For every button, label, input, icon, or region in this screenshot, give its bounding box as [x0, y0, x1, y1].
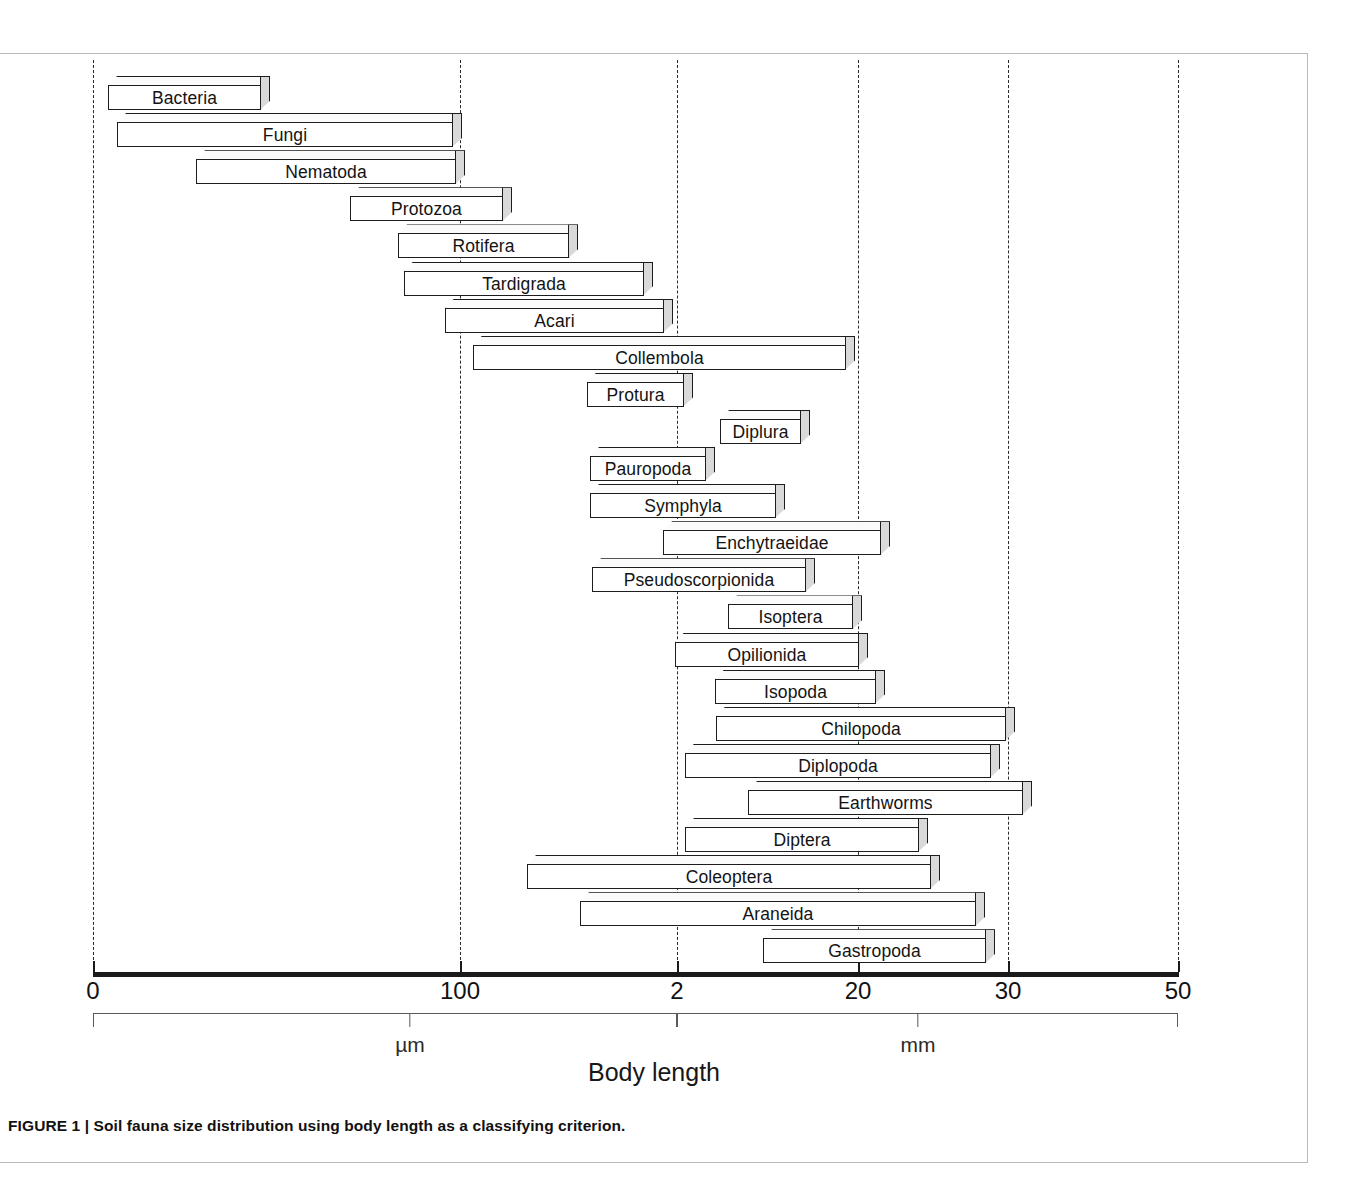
gridline-0: [93, 60, 94, 965]
bracket-end-left: [677, 1013, 678, 1027]
figure-page: BacteriaFungiNematodaProtozoaRotiferaTar…: [0, 0, 1371, 1187]
bar-front-face: [728, 604, 853, 629]
bar-side-face: [663, 299, 673, 333]
bracket-mid-tick: [917, 1013, 918, 1027]
bar-collembola: Collembola: [473, 336, 855, 362]
bar-front-face: [748, 790, 1023, 815]
bar-side-face: [502, 187, 512, 221]
bar-side-face: [858, 633, 868, 667]
bar-front-face: [196, 159, 456, 184]
bar-side-face: [260, 76, 270, 110]
bar-side-face: [805, 558, 815, 592]
bar-front-face: [580, 901, 976, 926]
bracket-line: [93, 1013, 677, 1014]
bar-pseudoscorpionida: Pseudoscorpionida: [592, 558, 815, 584]
chart-plot-area: BacteriaFungiNematodaProtozoaRotiferaTar…: [0, 60, 1308, 975]
bar-bacteria: Bacteria: [108, 76, 270, 102]
x-tick-label-0: 0: [86, 977, 99, 1005]
x-tick-2: [677, 961, 679, 972]
bar-symphyla: Symphyla: [590, 484, 785, 510]
bar-side-face: [990, 744, 1000, 778]
bar-side-face: [852, 595, 862, 629]
bar-side-face: [875, 670, 885, 704]
bar-front-face: [350, 196, 503, 221]
x-tick-label-2: 2: [670, 977, 683, 1005]
bracket-end-left: [93, 1013, 94, 1027]
bar-earthworms: Earthworms: [748, 781, 1032, 807]
bar-side-face: [775, 484, 785, 518]
x-axis-line: [93, 972, 1179, 977]
bar-diplura: Diplura: [720, 410, 810, 436]
bar-front-face: [117, 122, 453, 147]
frame-top-border: [0, 53, 1308, 54]
bar-front-face: [590, 493, 776, 518]
bar-front-face: [398, 233, 569, 258]
bar-front-face: [715, 679, 876, 704]
bar-front-face: [587, 382, 684, 407]
bracket-end-right: [1177, 1013, 1178, 1027]
bracket-mid-tick: [409, 1013, 410, 1027]
bar-front-face: [675, 642, 859, 667]
bar-nematoda: Nematoda: [196, 150, 465, 176]
bar-araneida: Araneida: [580, 892, 985, 918]
x-tick-label-50: 50: [1165, 977, 1192, 1005]
bar-front-face: [590, 456, 706, 481]
bar-side-face: [918, 818, 928, 852]
bar-side-face: [1022, 781, 1032, 815]
frame-bottom-border: [0, 1162, 1308, 1163]
x-tick-label-100: 100: [440, 977, 480, 1005]
bar-side-face: [880, 521, 890, 555]
bar-fungi: Fungi: [117, 113, 462, 139]
bar-front-face: [108, 85, 261, 110]
unit-label: mm: [901, 1033, 936, 1057]
bar-side-face: [845, 336, 855, 370]
bar-pauropoda: Pauropoda: [590, 447, 715, 473]
x-tick-0: [93, 961, 95, 972]
bar-front-face: [763, 938, 986, 963]
bar-side-face: [975, 892, 985, 926]
bar-tardigrada: Tardigrada: [404, 262, 653, 288]
x-axis-title: Body length: [0, 1058, 1308, 1087]
unit-bracket-mm: mm: [677, 1013, 1178, 1029]
bar-front-face: [720, 419, 801, 444]
bar-side-face: [455, 150, 465, 184]
bar-chilopoda: Chilopoda: [716, 707, 1015, 733]
bar-diplopoda: Diplopoda: [685, 744, 1000, 770]
x-tick-50: [1178, 961, 1180, 972]
bar-front-face: [445, 308, 664, 333]
bar-side-face: [1005, 707, 1015, 741]
unit-bracket-um: µm: [93, 1013, 677, 1029]
bracket-line: [677, 1013, 1178, 1014]
figure-caption: FIGURE 1 | Soil fauna size distribution …: [8, 1117, 1288, 1135]
bar-front-face: [592, 567, 806, 592]
bar-side-face: [930, 855, 940, 889]
bar-front-face: [404, 271, 644, 296]
bar-front-face: [685, 753, 991, 778]
x-tick-label-30: 30: [995, 977, 1022, 1005]
bar-protura: Protura: [587, 373, 693, 399]
bar-diptera: Diptera: [685, 818, 928, 844]
bar-protozoa: Protozoa: [350, 187, 512, 213]
bar-front-face: [716, 716, 1006, 741]
bar-front-face: [473, 345, 846, 370]
bar-isoptera: Isoptera: [728, 595, 862, 621]
gridline-50: [1178, 60, 1179, 965]
bar-front-face: [685, 827, 919, 852]
bar-rotifera: Rotifera: [398, 224, 578, 250]
bar-side-face: [683, 373, 693, 407]
x-tick-30: [1008, 961, 1010, 972]
bar-gastropoda: Gastropoda: [763, 929, 995, 955]
bar-side-face: [568, 224, 578, 258]
bar-side-face: [800, 410, 810, 444]
bar-enchytraeidae: Enchytraeidae: [663, 521, 890, 547]
x-tick-100: [460, 961, 462, 972]
bar-front-face: [663, 530, 881, 555]
bar-opilionida: Opilionida: [675, 633, 868, 659]
bar-isopoda: Isopoda: [715, 670, 885, 696]
gridline-30: [1008, 60, 1009, 965]
bar-acari: Acari: [445, 299, 673, 325]
x-tick-label-20: 20: [845, 977, 872, 1005]
bar-coleoptera: Coleoptera: [527, 855, 940, 881]
bar-side-face: [985, 929, 995, 963]
bar-front-face: [527, 864, 931, 889]
